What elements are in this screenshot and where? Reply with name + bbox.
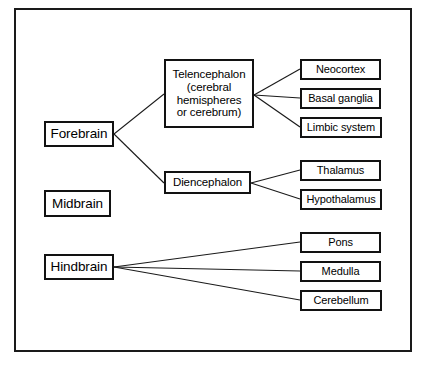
node-diencephalon-label: Diencephalon	[170, 176, 245, 189]
node-pons: Pons	[300, 232, 381, 253]
node-basal-ganglia: Basal ganglia	[300, 88, 381, 109]
node-hypothalamus-label: Hypothalamus	[303, 193, 378, 205]
brain-divisions-diagram: Forebrain Midbrain Hindbrain Telencephal…	[0, 0, 425, 365]
node-telencephalon: Telencephalon (cerebral hemispheres or c…	[164, 59, 254, 128]
node-cerebellum: Cerebellum	[300, 290, 382, 311]
node-basal-ganglia-label: Basal ganglia	[305, 92, 376, 104]
node-medulla-label: Medulla	[319, 265, 363, 277]
node-forebrain: Forebrain	[44, 121, 114, 147]
node-midbrain-label: Midbrain	[49, 196, 106, 211]
node-hypothalamus: Hypothalamus	[300, 189, 382, 210]
node-hindbrain: Hindbrain	[44, 254, 114, 280]
node-neocortex-label: Neocortex	[313, 63, 368, 75]
node-hindbrain-label: Hindbrain	[48, 259, 111, 274]
node-medulla: Medulla	[300, 261, 381, 282]
node-forebrain-label: Forebrain	[48, 126, 111, 141]
node-neocortex: Neocortex	[300, 59, 381, 80]
node-telencephalon-label: Telencephalon (cerebral hemispheres or c…	[170, 68, 249, 120]
node-limbic-system-label: Limbic system	[304, 121, 378, 133]
node-thalamus: Thalamus	[300, 160, 381, 181]
node-thalamus-label: Thalamus	[314, 164, 368, 176]
node-cerebellum-label: Cerebellum	[310, 294, 371, 306]
node-pons-label: Pons	[325, 236, 356, 248]
node-limbic-system: Limbic system	[300, 117, 382, 138]
node-midbrain: Midbrain	[44, 190, 111, 217]
node-diencephalon: Diencephalon	[164, 171, 251, 194]
